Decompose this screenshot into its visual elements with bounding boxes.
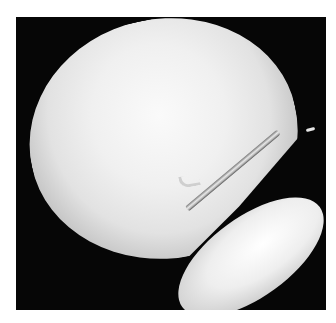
debris-speck [306, 127, 315, 132]
arthroscopic-image [16, 17, 326, 310]
